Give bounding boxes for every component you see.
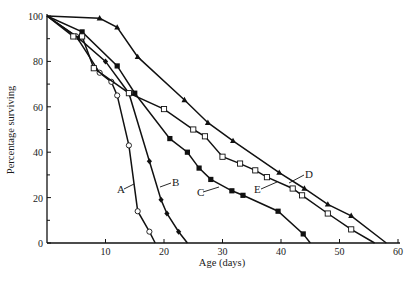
y-tick-label: 80 bbox=[33, 56, 43, 67]
plot-area: ABCDE bbox=[47, 15, 386, 243]
series-e bbox=[47, 16, 375, 243]
open-square-marker bbox=[71, 34, 76, 39]
y-axis: 020406080100 Percentage surviving bbox=[5, 11, 51, 249]
open-square-marker bbox=[290, 186, 295, 191]
diamond-marker bbox=[147, 158, 152, 164]
survival-chart: 020406080100 Percentage surviving 102030… bbox=[0, 0, 417, 281]
y-tick-label: 20 bbox=[33, 193, 43, 204]
x-tick-label: 60 bbox=[393, 246, 403, 257]
open-square-marker bbox=[325, 211, 330, 216]
x-axis: 102030405060 Age (days) bbox=[47, 239, 403, 269]
x-tick-label: 10 bbox=[101, 246, 111, 257]
filled-square-marker bbox=[115, 63, 120, 68]
y-tick-label: 0 bbox=[38, 238, 43, 249]
open-square-marker bbox=[220, 154, 225, 159]
open-circle-marker bbox=[126, 143, 131, 148]
filled-square-marker bbox=[167, 136, 172, 141]
y-tick-label: 100 bbox=[28, 11, 43, 22]
x-tick-label: 30 bbox=[218, 246, 228, 257]
svg-text:E: E bbox=[254, 183, 261, 195]
x-tick-label: 50 bbox=[335, 246, 345, 257]
open-square-marker bbox=[91, 66, 96, 71]
open-square-marker bbox=[299, 193, 304, 198]
open-square-marker bbox=[253, 168, 258, 173]
curve-label-d: D bbox=[289, 168, 313, 183]
curve-label-a: A bbox=[117, 183, 134, 195]
y-tick-label: 60 bbox=[33, 102, 43, 113]
filled-square-marker bbox=[208, 177, 213, 182]
triangle-marker bbox=[325, 201, 331, 206]
open-circle-marker bbox=[147, 229, 152, 234]
filled-square-marker bbox=[301, 231, 306, 236]
filled-square-marker bbox=[229, 188, 234, 193]
diamond-marker bbox=[158, 197, 163, 203]
filled-square-marker bbox=[275, 209, 280, 214]
y-tick-label: 40 bbox=[33, 147, 43, 158]
svg-text:D: D bbox=[305, 168, 313, 180]
x-tick-label: 40 bbox=[276, 246, 286, 257]
triangle-marker bbox=[276, 169, 282, 174]
filled-square-marker bbox=[197, 165, 202, 170]
open-circle-marker bbox=[115, 93, 120, 98]
open-square-marker bbox=[161, 106, 166, 111]
x-tick-label: 20 bbox=[159, 246, 169, 257]
open-square-marker bbox=[264, 175, 269, 180]
y-axis-label: Percentage surviving bbox=[5, 85, 16, 174]
series-d bbox=[47, 15, 386, 243]
curve-label-b: B bbox=[160, 176, 179, 188]
open-square-marker bbox=[80, 34, 85, 39]
filled-square-marker bbox=[240, 193, 245, 198]
open-circle-marker bbox=[135, 209, 140, 214]
svg-text:C: C bbox=[197, 186, 204, 198]
open-square-marker bbox=[202, 134, 207, 139]
filled-square-marker bbox=[185, 150, 190, 155]
open-square-marker bbox=[126, 91, 131, 96]
open-square-marker bbox=[349, 227, 354, 232]
curve-label-e: E bbox=[254, 182, 277, 195]
series-b bbox=[47, 16, 187, 243]
open-square-marker bbox=[237, 161, 242, 166]
open-square-marker bbox=[191, 127, 196, 132]
svg-text:A: A bbox=[117, 183, 125, 195]
curve-label-c: C bbox=[197, 186, 219, 198]
svg-text:B: B bbox=[172, 176, 179, 188]
x-axis-label: Age (days) bbox=[199, 257, 246, 269]
